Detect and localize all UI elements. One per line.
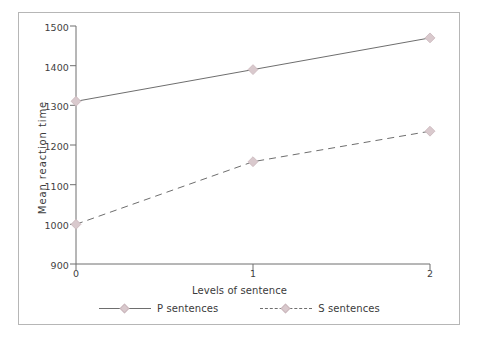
x-tick-label: 0 [73,268,79,279]
legend-swatch-dashed-line-icon [260,304,312,314]
y-tick-label: 1400 [44,62,69,73]
legend-swatch-solid-line-icon [99,304,151,314]
chart-legend: P sentences S sentences [0,303,479,314]
legend-item-s-sentences: S sentences [260,303,380,314]
x-tick-label: 1 [250,268,256,279]
y-tick-label: 1000 [44,220,69,231]
y-axis-title: Mean reaction time [37,88,48,228]
x-axis-title: Levels of sentence [0,285,479,296]
y-tick-label: 1200 [44,141,69,152]
legend-label: P sentences [157,303,218,314]
y-tick-label: 1100 [44,181,69,192]
legend-label: S sentences [318,303,380,314]
legend-item-p-sentences: P sentences [99,303,218,314]
x-axis-tick-labels: 0 1 2 [0,268,479,284]
y-tick-label: 1500 [44,22,69,33]
x-tick-label: 2 [427,268,433,279]
chart-figure: 1500 1400 1300 1200 1100 1000 900 0 1 2 … [0,0,479,342]
y-tick-label: 1300 [44,101,69,112]
